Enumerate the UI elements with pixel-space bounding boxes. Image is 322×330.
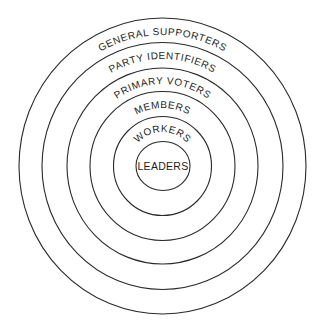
label-leaders: LEADERS [137, 160, 188, 172]
label-members: MEMBERS [132, 99, 192, 117]
label-primary-voters: PRIMARY VOTERS [112, 75, 213, 101]
concentric-party-diagram: GENERAL SUPPORTERS PARTY IDENTIFIERS PRI… [0, 0, 322, 330]
label-general-supporters: GENERAL SUPPORTERS [96, 26, 229, 53]
diagram-canvas: GENERAL SUPPORTERS PARTY IDENTIFIERS PRI… [0, 0, 322, 330]
label-party-identifiers: PARTY IDENTIFIERS [107, 50, 218, 75]
